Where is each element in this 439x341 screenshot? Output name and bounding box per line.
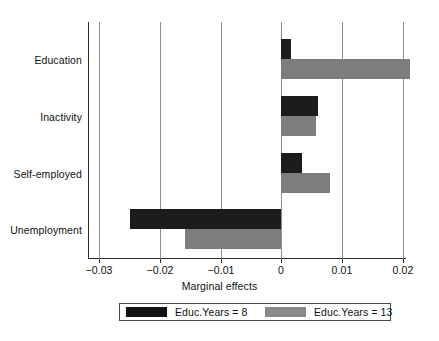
x-tick-label-neg0.02: −0.02 xyxy=(146,264,173,276)
bar-unemployment-educ8 xyxy=(130,209,281,229)
bar-self-employed-educ8 xyxy=(281,153,302,173)
x-tick-label-zero: 0 xyxy=(278,264,284,276)
marginal-effects-bar-chart: −0.03 −0.02 −0.01 0 0.01 0.02 Marginal e… xyxy=(0,0,439,341)
bar-unemployment-educ13 xyxy=(185,229,281,249)
x-tick-label-neg0.03: −0.03 xyxy=(85,264,112,276)
xtick-neg0.03 xyxy=(99,259,100,263)
bar-self-employed-educ13 xyxy=(281,173,330,193)
xtick-0.02 xyxy=(403,259,404,263)
x-tick-label-0.02: 0.02 xyxy=(393,264,414,276)
x-tick-label-neg0.01: −0.01 xyxy=(207,264,234,276)
x-axis-line xyxy=(88,258,406,259)
legend-swatch-gray-icon xyxy=(265,307,306,317)
gridline-neg0.03 xyxy=(99,22,100,259)
plot-area xyxy=(88,22,403,259)
y-tick-label-unemployment: Unemployment xyxy=(0,224,82,236)
legend-swatch-dark-icon xyxy=(126,307,167,317)
xtick-zero xyxy=(281,259,282,263)
x-tick-label-0.01: 0.01 xyxy=(332,264,353,276)
legend: Educ.Years = 8 Educ.Years = 13 xyxy=(119,303,391,321)
bar-education-educ8 xyxy=(281,39,291,59)
bar-education-educ13 xyxy=(281,59,410,79)
legend-entry-educ13: Educ.Years = 13 xyxy=(265,304,392,320)
bar-inactivity-educ8 xyxy=(281,96,318,116)
legend-label-educ13: Educ.Years = 13 xyxy=(314,306,392,318)
x-axis-title: Marginal effects xyxy=(0,280,439,292)
gridline-0.02 xyxy=(403,22,404,259)
xtick-neg0.01 xyxy=(221,259,222,263)
y-axis-line xyxy=(88,22,89,259)
bar-inactivity-educ13 xyxy=(281,116,316,136)
legend-label-educ8: Educ.Years = 8 xyxy=(175,306,248,318)
y-tick-label-education: Education xyxy=(0,54,82,66)
xtick-0.01 xyxy=(342,259,343,263)
legend-entry-educ8: Educ.Years = 8 xyxy=(126,304,248,320)
y-tick-label-inactivity: Inactivity xyxy=(0,111,82,123)
gridline-0.01 xyxy=(342,22,343,259)
xtick-neg0.02 xyxy=(160,259,161,263)
y-tick-label-self-employed: Self-employed xyxy=(0,168,82,180)
